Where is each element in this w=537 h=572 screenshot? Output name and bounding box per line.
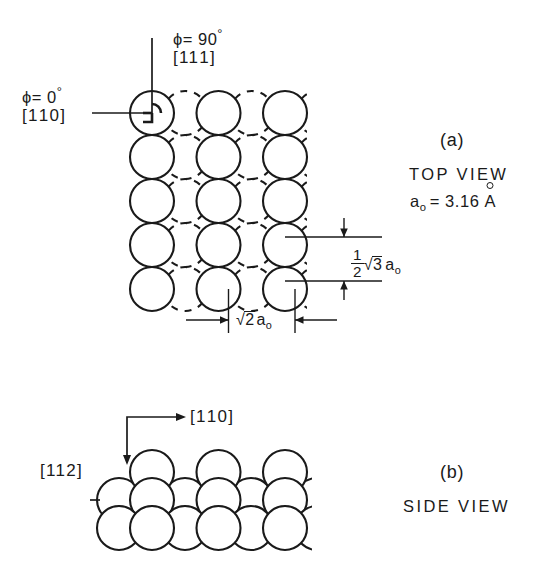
- miller-index-1-1-1bar: [111]: [173, 47, 216, 68]
- bracket-close: ]: [60, 106, 66, 125]
- panel-a-caption-letter: (a): [440, 130, 464, 151]
- bracket-close-90: ]: [210, 48, 216, 67]
- miller-l-90: 1: [199, 48, 210, 67]
- radical-sign-2: √: [236, 311, 245, 328]
- panel-b-caption-name: SIDE VIEW: [403, 497, 510, 516]
- miller-h-side-h: 1: [196, 407, 207, 426]
- side-view-lattice: [90, 450, 339, 550]
- angstrom-unit: A: [485, 192, 497, 211]
- miller-k-side-h: 1: [207, 407, 218, 426]
- miller-l-side-v: 2: [66, 461, 77, 480]
- miller-h-90: 1: [179, 48, 189, 67]
- fraction-numerator: 1: [351, 247, 364, 263]
- panel-a-caption-name: TOP VIEW: [409, 165, 508, 184]
- figure-root: ϕ= 0° [110] ϕ= 90° [111] 1 2 √3ao √2ao (…: [0, 0, 537, 572]
- phi-zero-value: = 0: [32, 88, 57, 106]
- side-view-direction-1-1-2: [112]: [40, 461, 83, 481]
- lattice-constant-subscript-2: o: [266, 319, 272, 331]
- first-layer-atoms: [130, 91, 307, 311]
- right-edge-mask: [307, 80, 367, 320]
- degree-sign: °: [57, 84, 63, 99]
- miller-h-side-v: 1: [46, 461, 56, 480]
- miller-l: 0: [50, 106, 61, 125]
- a0-subscript: o: [420, 201, 427, 213]
- dimension-label-root2-a0: √2ao: [236, 310, 272, 332]
- radicand: 3: [373, 256, 382, 273]
- top-view-lattice: [130, 80, 367, 320]
- phi-zero-label: ϕ= 0°: [22, 84, 62, 107]
- radical-3: √3: [364, 255, 383, 275]
- miller-l-overbar: 1: [199, 47, 210, 68]
- phi-ninety-value: = 90: [183, 30, 218, 48]
- phi-symbol-90: ϕ: [173, 30, 183, 48]
- degree-sign-90: °: [217, 26, 223, 41]
- angstrom-letter: A: [485, 192, 497, 210]
- side-view-direction-1-1bar-0: [110]: [190, 406, 234, 427]
- miller-k-90: 1: [189, 48, 200, 67]
- miller-index-1-1bar-0-top: [110]: [22, 105, 66, 126]
- a0-symbol: a: [410, 192, 420, 210]
- panel-a-lattice-constant: ao= 3.16A: [410, 192, 496, 215]
- lattice-constant-symbol-2: a: [257, 311, 266, 328]
- miller-k: 1: [39, 106, 50, 125]
- lattice-constant-subscript: o: [395, 264, 401, 276]
- figure-canvas: [0, 0, 537, 572]
- phi-symbol: ϕ: [22, 88, 32, 106]
- one-half-fraction: 1 2: [351, 247, 364, 279]
- radicand-2: 2: [245, 311, 254, 328]
- lattice-constant-symbol: a: [385, 256, 394, 273]
- dimension-label-half-root3-a0: 1 2 √3ao: [351, 247, 401, 279]
- bracket-close-side-h: ]: [228, 407, 234, 426]
- bracket-close-side-v: ]: [77, 461, 83, 480]
- panel-b-caption-letter: (b): [440, 462, 464, 483]
- miller-k-overbar: 1: [39, 105, 50, 126]
- miller-l-side-h: 0: [218, 407, 229, 426]
- miller-h: 1: [28, 106, 39, 125]
- miller-k-side-v: 1: [56, 461, 67, 480]
- phi-ninety-label: ϕ= 90°: [173, 26, 223, 49]
- radical-2: √2: [236, 310, 255, 330]
- a0-value: = 3.16: [430, 192, 480, 210]
- radical-sign: √: [364, 256, 373, 273]
- fraction-denominator: 2: [351, 263, 364, 280]
- miller-k-overbar-side-h: 1: [207, 406, 218, 427]
